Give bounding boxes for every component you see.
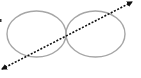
right-ellipse	[66, 11, 125, 57]
edge-mark	[0, 19, 2, 22]
dotted-double-arrow	[2, 2, 132, 69]
left-ellipse	[7, 11, 66, 57]
diagram-canvas	[0, 0, 141, 78]
